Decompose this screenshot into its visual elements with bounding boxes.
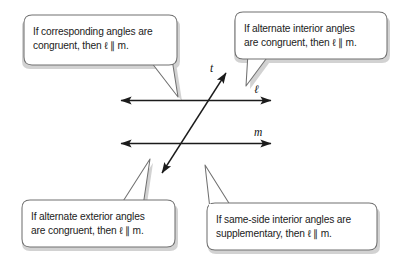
line-label-l: ℓ — [254, 83, 259, 95]
line-label-m: m — [254, 126, 262, 138]
seam-cover-tl — [149, 57, 171, 60]
callout-alternate-exterior-bubble[interactable] — [22, 200, 175, 247]
figure-canvas — [0, 0, 407, 260]
seam-cover-tr — [249, 51, 269, 54]
callout-same-side-interior-tail — [205, 165, 232, 209]
seam-cover-bl — [121, 201, 143, 204]
line-label-t: t — [210, 62, 213, 74]
parallel-lines-figure: If corresponding angles are congruent, t… — [0, 0, 407, 260]
seam-cover-br — [209, 204, 232, 207]
callout-same-side-interior-bubble[interactable] — [207, 203, 377, 250]
